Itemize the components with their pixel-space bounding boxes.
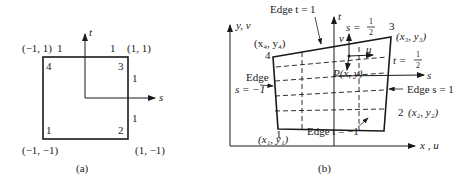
local-t-label: t bbox=[338, 10, 342, 22]
corner-3-coord: (1, 1) bbox=[127, 42, 151, 55]
half-length-top-left: 1 bbox=[57, 42, 63, 54]
edge-top-label: Edge t = 1 bbox=[270, 3, 316, 15]
s-half-den: 2 bbox=[369, 28, 373, 37]
v-label: v bbox=[339, 32, 344, 44]
figure-a: s t 4 3 1 2 (−1, 1) (1, 1) (−1, −1) (1, … bbox=[22, 26, 165, 175]
isoparametric-diagram: s t 4 3 1 2 (−1, 1) (1, 1) (−1, −1) (1, … bbox=[0, 0, 471, 183]
node-4-coord: (x₄, y₄) bbox=[254, 37, 286, 50]
node-2-coord: (x₂, y₂) bbox=[408, 106, 439, 119]
y-axis-label: y, v bbox=[235, 19, 251, 31]
local-s-label: s bbox=[427, 69, 431, 81]
caption-b: (b) bbox=[318, 162, 331, 175]
t-axis-label: t bbox=[89, 26, 93, 38]
node-2-label-b: 2 bbox=[398, 106, 404, 118]
iso-grid bbox=[275, 47, 387, 130]
u-label: u bbox=[366, 43, 372, 55]
figure-b: x , u y, v t s v u P(x, y) s = 1 2 bbox=[230, 3, 454, 175]
half-length-top-right: 1 bbox=[110, 42, 116, 54]
u-arrow bbox=[349, 55, 373, 56]
node-4-label: 4 bbox=[46, 60, 52, 72]
point-p bbox=[348, 55, 351, 58]
caption-a: (a) bbox=[76, 162, 89, 175]
corner-2-coord: (1, −1) bbox=[135, 144, 165, 157]
t-half-den: 2 bbox=[416, 61, 420, 70]
corner-1-coord: (−1, −1) bbox=[22, 144, 59, 157]
s-axis-label: s bbox=[159, 91, 163, 103]
s-half-label: s = bbox=[346, 21, 360, 33]
node-2-label: 2 bbox=[118, 124, 124, 136]
edge-left-label-1: Edge bbox=[246, 71, 269, 83]
half-length-right-upper: 1 bbox=[132, 72, 138, 84]
point-p-label: P(x, y) bbox=[332, 67, 363, 80]
corner-4-coord: (−1, 1) bbox=[22, 42, 52, 55]
t-half-label: t = bbox=[393, 54, 406, 66]
node-1-label: 1 bbox=[46, 124, 52, 136]
element-quadrilateral bbox=[273, 37, 391, 131]
node-3-coord: (x₃, y₃) bbox=[396, 30, 427, 43]
node-4-label-b: 4 bbox=[265, 49, 271, 61]
edge-right-label: Edge s = 1 bbox=[407, 83, 454, 95]
edge-bottom-label: Edge t = −1 bbox=[307, 125, 359, 137]
x-axis-label: x , u bbox=[419, 139, 439, 151]
t-half-num: 1 bbox=[416, 50, 420, 59]
half-length-right-lower: 1 bbox=[132, 112, 138, 124]
node-3-label: 3 bbox=[118, 60, 124, 72]
s-half-num: 1 bbox=[369, 17, 373, 26]
node-3-label-b: 3 bbox=[389, 20, 395, 32]
node-1-coord: (x₁, y₁) bbox=[258, 133, 289, 146]
